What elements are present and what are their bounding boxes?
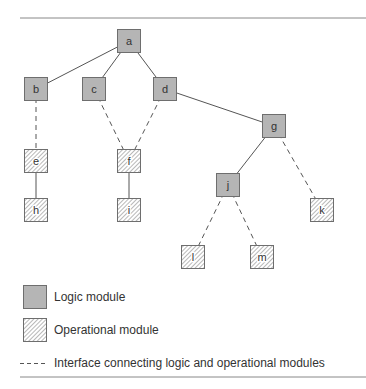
legend-logic-label: Logic module xyxy=(54,290,125,304)
legend-logic-swatch xyxy=(24,286,47,309)
svg-text:a: a xyxy=(126,35,133,47)
node-m: m xyxy=(251,246,274,269)
node-e: e xyxy=(25,150,48,173)
edge-d-g xyxy=(165,89,274,126)
legend-operational-swatch xyxy=(24,319,47,342)
node-a: a xyxy=(118,30,141,53)
node-b: b xyxy=(25,78,48,101)
svg-text:i: i xyxy=(128,204,130,216)
svg-text:b: b xyxy=(33,83,39,95)
svg-text:e: e xyxy=(33,155,39,167)
node-i: i xyxy=(118,199,141,222)
node-k: k xyxy=(311,199,334,222)
svg-text:k: k xyxy=(319,204,325,216)
edge-g-k xyxy=(274,126,322,210)
legend-operational-label: Operational module xyxy=(54,323,159,337)
svg-text:l: l xyxy=(192,251,194,263)
svg-text:c: c xyxy=(91,83,97,95)
svg-text:h: h xyxy=(33,204,39,216)
svg-text:j: j xyxy=(226,179,229,191)
legend xyxy=(20,286,47,364)
svg-text:d: d xyxy=(162,83,168,95)
node-l: l xyxy=(182,246,205,269)
edges xyxy=(36,41,322,257)
node-d: d xyxy=(154,78,177,101)
node-c: c xyxy=(83,78,106,101)
svg-text:g: g xyxy=(271,120,277,132)
svg-text:m: m xyxy=(257,251,266,263)
node-f: f xyxy=(118,150,141,173)
legend-interface-label: Interface connecting logic and operation… xyxy=(54,356,325,370)
node-h: h xyxy=(25,199,48,222)
nodes: abcdgefhijklm xyxy=(25,30,334,269)
node-j: j xyxy=(217,174,240,197)
node-g: g xyxy=(263,115,286,138)
